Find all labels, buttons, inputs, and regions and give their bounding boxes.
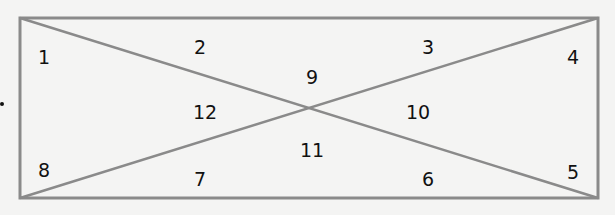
region-label-12: 12 xyxy=(193,103,217,122)
region-label-9: 9 xyxy=(306,68,318,87)
region-label-4: 4 xyxy=(567,48,579,67)
diagram-canvas: 1 2 3 4 5 6 7 8 9 10 11 12 xyxy=(0,0,615,215)
region-label-11: 11 xyxy=(300,141,324,160)
region-label-5: 5 xyxy=(567,163,579,182)
region-label-6: 6 xyxy=(422,170,434,189)
diagram-lines xyxy=(0,0,615,215)
region-label-10: 10 xyxy=(406,103,430,122)
left-edge-dot xyxy=(0,102,4,106)
region-label-1: 1 xyxy=(38,48,50,67)
region-label-3: 3 xyxy=(422,38,434,57)
region-label-8: 8 xyxy=(38,161,50,180)
region-label-2: 2 xyxy=(194,38,206,57)
region-label-7: 7 xyxy=(194,170,206,189)
